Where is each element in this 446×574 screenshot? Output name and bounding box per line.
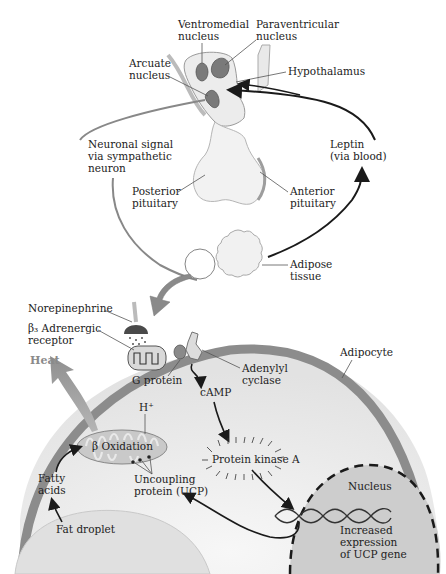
leptin-label: Leptin (via blood): [330, 138, 387, 162]
adipocyte-label: Adipocyte: [339, 346, 393, 378]
adipose-tissue-label: Adipose tissue: [262, 258, 332, 282]
svg-text:protein (UCP): protein (UCP): [134, 485, 208, 497]
svg-text:Fat droplet: Fat droplet: [56, 523, 116, 535]
svg-text:Ventromedial: Ventromedial: [177, 18, 250, 30]
svg-text:nucleus: nucleus: [256, 30, 297, 42]
heat-label: Heat: [30, 354, 61, 367]
svg-text:β₃ Adrenergic: β₃ Adrenergic: [28, 322, 101, 334]
svg-text:via sympathetic: via sympathetic: [87, 150, 172, 162]
neuronal-signal-label: Neuronal signal via sympathetic neuron: [87, 138, 174, 174]
svg-text:neuron: neuron: [88, 162, 126, 174]
svg-text:Fatty: Fatty: [38, 472, 65, 484]
camp-label: cAMP: [200, 386, 231, 398]
hypothalamus-pituitary: [168, 45, 270, 204]
leptin-path-upper: [230, 90, 375, 140]
adenylyl-cyclase: [186, 332, 202, 360]
svg-text:Leptin: Leptin: [330, 138, 364, 150]
ventromedial-nucleus: [196, 63, 208, 81]
svg-text:Norepinephrine: Norepinephrine: [28, 302, 113, 314]
adipose-tissue: [185, 230, 262, 279]
norepinephrine-label: Norepinephrine: [28, 302, 132, 322]
svg-text:tissue: tissue: [290, 270, 321, 282]
svg-text:Adenylyl: Adenylyl: [241, 362, 289, 374]
svg-text:G protein: G protein: [132, 374, 183, 386]
svg-text:Posterior: Posterior: [132, 185, 181, 197]
svg-text:cAMP: cAMP: [200, 386, 231, 398]
leptin-path-lower: [268, 170, 362, 257]
svg-text:β Oxidation: β Oxidation: [92, 440, 153, 452]
svg-text:Anterior: Anterior: [289, 185, 335, 197]
svg-text:receptor: receptor: [28, 334, 75, 346]
svg-text:Uncoupling: Uncoupling: [134, 473, 196, 485]
svg-text:Increased: Increased: [340, 524, 393, 536]
sympathetic-neuron-terminal: [124, 302, 148, 345]
svg-text:pituitary: pituitary: [290, 197, 336, 209]
leptin-pathway-diagram: Ventromedial Ventromedial nucleus Parave…: [0, 0, 446, 574]
neuronal-signal-path: [80, 100, 205, 140]
svg-text:cyclase: cyclase: [242, 374, 281, 386]
svg-text:Nucleus: Nucleus: [348, 480, 392, 492]
svg-text:Adipocyte: Adipocyte: [339, 346, 393, 358]
svg-text:expression: expression: [340, 536, 398, 548]
svg-text:nucleus: nucleus: [178, 30, 219, 42]
svg-text:Heat: Heat: [30, 354, 61, 367]
svg-text:Neuronal signal: Neuronal signal: [88, 138, 174, 150]
svg-text:Protein kinase A: Protein kinase A: [212, 453, 300, 465]
svg-text:Ventromedial: Ventromedial: [177, 0, 250, 2]
svg-text:pituitary: pituitary: [132, 197, 178, 209]
svg-text:of UCP gene: of UCP gene: [340, 548, 407, 560]
svg-text:acids: acids: [38, 484, 66, 496]
svg-text:Arcuate: Arcuate: [128, 57, 171, 69]
svg-text:H⁺: H⁺: [139, 401, 154, 413]
anterior-pituitary-label: Anterior pituitary: [260, 172, 336, 209]
zoom-arrow: [150, 274, 192, 316]
svg-text:(via blood): (via blood): [330, 150, 387, 162]
fatty-acids-label: Fatty acids: [38, 472, 66, 496]
svg-text:nucleus: nucleus: [129, 69, 170, 81]
svg-text:Hypothalamus: Hypothalamus: [288, 65, 365, 77]
g-protein: [174, 345, 186, 359]
nucleus-label: Nucleus: [348, 480, 392, 492]
fat-droplet-label: Fat droplet: [56, 523, 116, 535]
beta3-receptor-label: β₃ Adrenergic receptor: [28, 322, 134, 350]
beta-oxidation-label: β Oxidation: [92, 440, 153, 452]
svg-text:Paraventricular: Paraventricular: [256, 18, 340, 30]
svg-text:Adipose: Adipose: [289, 258, 332, 270]
hypothalamus-label: Hypothalamus: [236, 65, 365, 82]
